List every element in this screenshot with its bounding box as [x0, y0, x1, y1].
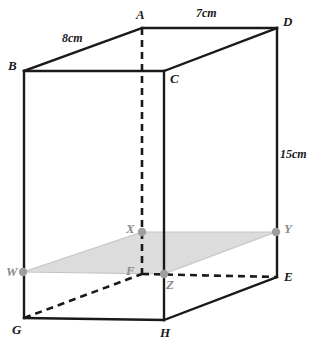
vertex-label-B: B: [8, 59, 17, 72]
marker-Y: [272, 228, 280, 236]
section-label-Z: Z: [166, 278, 174, 291]
edge-C-D: [164, 28, 277, 71]
dimension-label-height: 15cm: [280, 148, 307, 160]
shaded-plane-wxyz: [23, 232, 276, 274]
vertex-label-E: E: [284, 270, 293, 283]
vertex-label-A: A: [136, 8, 145, 21]
vertex-label-F: F: [126, 264, 135, 277]
edge-H-E: [164, 277, 277, 320]
marker-W: [19, 268, 27, 276]
marker-X: [138, 228, 146, 236]
vertex-label-C: C: [170, 72, 179, 85]
dimension-label-width: 8cm: [62, 32, 83, 44]
section-label-X: X: [126, 222, 135, 235]
dimension-label-depth: 7cm: [196, 7, 217, 19]
section-label-Y: Y: [284, 222, 292, 235]
edge-G-H: [24, 318, 164, 320]
vertex-label-D: D: [283, 15, 292, 28]
edge-B-A: [24, 28, 142, 71]
section-label-W: W: [6, 265, 18, 278]
cuboid-drawing: [0, 0, 318, 353]
vertex-label-G: G: [12, 323, 21, 336]
hidden-edge-G-F: [24, 274, 142, 318]
vertex-label-H: H: [160, 326, 170, 339]
cuboid-figure: A D B C E F G H W X Y Z 8cm 7cm 15cm: [0, 0, 318, 353]
